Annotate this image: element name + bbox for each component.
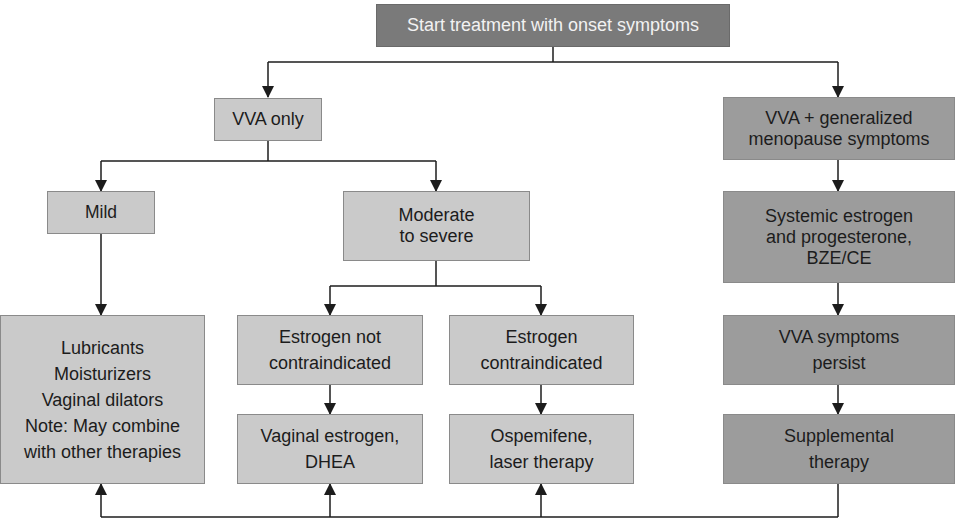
node-estrogen-contraindicated: Estrogen contraindicated bbox=[449, 315, 634, 385]
node-mild-therapies: Lubricants Moisturizers Vaginal dilators… bbox=[0, 315, 205, 484]
node-start-treatment: Start treatment with onset symptoms bbox=[376, 4, 730, 47]
node-vaginal-estrogen: Vaginal estrogen, DHEA bbox=[237, 414, 423, 484]
node-vva-generalized: VVA + generalized menopause symptoms bbox=[723, 97, 955, 160]
node-systemic-estrogen: Systemic estrogen and progesterone, BZE/… bbox=[723, 191, 955, 283]
node-estrogen-not-contraindicated: Estrogen not contraindicated bbox=[237, 315, 423, 385]
node-moderate-severe: Moderate to severe bbox=[343, 191, 530, 261]
node-supplemental-therapy: Supplemental therapy bbox=[723, 414, 955, 484]
node-ospemifene: Ospemifene, laser therapy bbox=[449, 414, 634, 484]
node-vva-symptoms-persist: VVA symptoms persist bbox=[723, 315, 955, 385]
node-vva-only: VVA only bbox=[214, 98, 322, 141]
node-mild: Mild bbox=[47, 191, 155, 234]
